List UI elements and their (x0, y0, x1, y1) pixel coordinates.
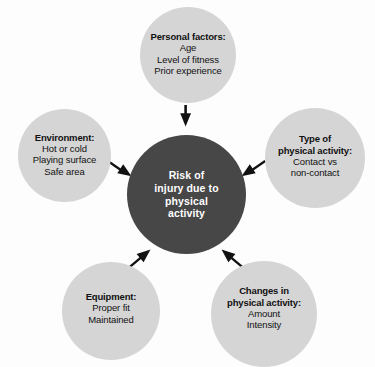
arrow-equipment-to-center-icon (129, 250, 151, 269)
environment-line-3: Safe area (33, 166, 96, 177)
environment-body: Environment: Hot or cold Playing surface… (33, 132, 96, 177)
type-of-physical-activity-body: Type of physical activity: Contact vs no… (278, 133, 352, 178)
personal-factors-line-3: Prior experience (150, 65, 225, 76)
changes-in-physical-activity-line-2: Intensity (227, 319, 301, 330)
arrow-type-to-center-icon (242, 160, 266, 176)
satellite-node-type-of-physical-activity: Type of physical activity: Contact vs no… (265, 108, 365, 208)
satellite-node-personal-factors: Personal factors: Age Level of fitness P… (140, 7, 236, 103)
environment-line-1: Hot or cold (33, 143, 96, 154)
personal-factors-body: Personal factors: Age Level of fitness P… (150, 31, 225, 76)
satellite-node-equipment: Equipment: Proper fit Maintained (62, 262, 160, 360)
personal-factors-line-2: Level of fitness (150, 54, 225, 65)
personal-factors-title: Personal factors: (150, 31, 225, 42)
type-of-physical-activity-line-2: non-contact (278, 167, 352, 178)
equipment-line-1: Proper fit (86, 302, 137, 313)
changes-in-physical-activity-line-1: Amount (227, 308, 301, 319)
risk-of-injury-diagram: Risk of injury due to physical activity … (0, 0, 375, 367)
satellite-node-changes-in-physical-activity: Changes in physical activity: Amount Int… (211, 261, 317, 367)
type-of-physical-activity-title: Type of physical activity: (278, 133, 352, 155)
equipment-line-2: Maintained (86, 314, 137, 325)
changes-in-physical-activity-title: Changes in physical activity: (227, 285, 301, 307)
arrow-personal-to-center-icon (180, 105, 191, 127)
changes-in-physical-activity-body: Changes in physical activity: Amount Int… (227, 285, 301, 330)
satellite-node-environment: Environment: Hot or cold Playing surface… (18, 109, 111, 202)
hub-node-body: Risk of injury due to physical activity (154, 169, 218, 219)
equipment-title: Equipment: (86, 291, 137, 302)
environment-line-2: Playing surface (33, 154, 96, 165)
arrow-environment-to-center-icon (107, 160, 131, 176)
hub-node-title: Risk of injury due to physical activity (154, 169, 218, 219)
personal-factors-line-1: Age (150, 42, 225, 53)
equipment-body: Equipment: Proper fit Maintained (86, 291, 137, 325)
hub-node-risk-of-injury: Risk of injury due to physical activity (127, 135, 246, 254)
environment-title: Environment: (33, 132, 96, 143)
type-of-physical-activity-line-1: Contact vs (278, 156, 352, 167)
